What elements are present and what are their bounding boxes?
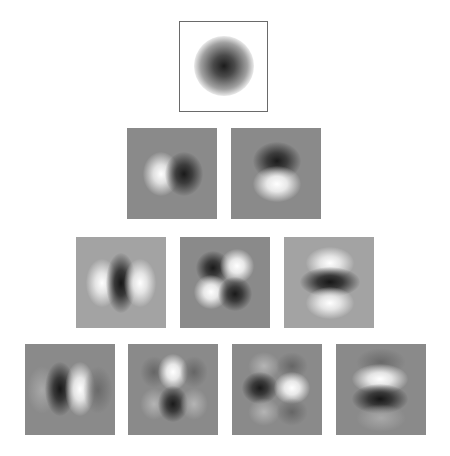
filter-dy bbox=[231, 128, 321, 219]
dark-blob bbox=[165, 152, 203, 196]
filter-dx bbox=[127, 128, 217, 219]
filter-dxxx bbox=[25, 344, 115, 435]
dark-blob-faint bbox=[83, 366, 113, 414]
dark-blob bbox=[194, 36, 254, 96]
bright-blob bbox=[124, 259, 156, 307]
bright-blob-faint bbox=[356, 404, 406, 432]
filter-dxy bbox=[180, 237, 270, 328]
filter-dxxy bbox=[128, 344, 218, 435]
filter-dyy bbox=[284, 237, 374, 328]
bright-blob-faint bbox=[180, 388, 208, 420]
filter-dxyy bbox=[232, 344, 322, 435]
dark-blob-faint bbox=[180, 356, 208, 388]
bright-blob bbox=[253, 166, 301, 202]
dark-blob bbox=[218, 277, 252, 311]
dark-blob-faint bbox=[276, 398, 308, 426]
filter-gaussian bbox=[179, 21, 268, 112]
filter-dxx bbox=[76, 237, 166, 328]
bright-blob bbox=[306, 287, 354, 319]
filter-dyyy bbox=[336, 344, 426, 435]
